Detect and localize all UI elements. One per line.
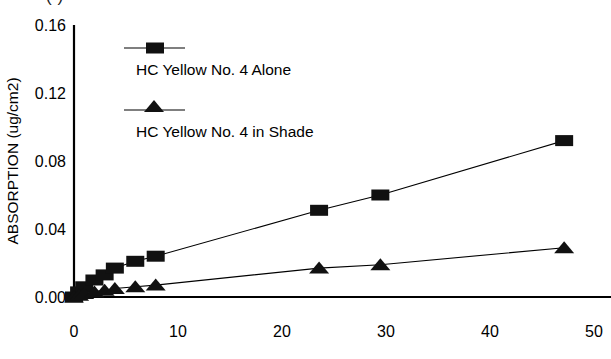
y-tick-label: 0.00	[35, 289, 66, 306]
data-point-square	[310, 205, 328, 216]
chart-figure: ( ) 0.16 0.12 0.08 0.04 0.00 0 10 20 30 …	[0, 0, 611, 359]
y-tick-labels: 0.16 0.12 0.08 0.04 0.00	[35, 17, 66, 306]
x-tick-label: 0	[70, 323, 79, 340]
y-tick-label: 0.12	[35, 85, 66, 102]
x-tick-label: 50	[585, 323, 603, 340]
series-shade	[64, 241, 574, 302]
legend: HC Yellow No. 4 Alone HC Yellow No. 4 in…	[124, 43, 314, 141]
absorption-line-chart: 0.16 0.12 0.08 0.04 0.00 0 10 20 30 40 5…	[0, 0, 611, 359]
legend-entry-shade: HC Yellow No. 4 in Shade	[124, 100, 314, 140]
legend-label: HC Yellow No. 4 Alone	[136, 61, 291, 78]
x-tick-label: 20	[273, 323, 291, 340]
data-point-square	[126, 256, 144, 267]
legend-label: HC Yellow No. 4 in Shade	[136, 123, 314, 140]
data-point-square	[371, 190, 389, 201]
x-tick-label: 10	[169, 323, 187, 340]
y-axis-title: ABSORPTION (ug/cm2)	[4, 77, 21, 244]
legend-entry-alone: HC Yellow No. 4 Alone	[124, 43, 291, 79]
x-tick-label: 40	[481, 323, 499, 340]
data-point-square	[147, 251, 165, 262]
y-tick-label: 0.04	[35, 221, 66, 238]
series-layer	[64, 135, 574, 302]
series-alone	[65, 135, 573, 302]
triangle-marker-icon	[144, 100, 164, 112]
square-marker-icon	[146, 43, 164, 54]
x-tick-label: 30	[377, 323, 395, 340]
data-point-triangle	[554, 241, 574, 253]
x-tick-labels: 0 10 20 30 40 50	[70, 323, 603, 340]
y-tick-label: 0.16	[35, 17, 66, 34]
y-tick-label: 0.08	[35, 153, 66, 170]
data-point-square	[555, 135, 573, 146]
data-point-square	[106, 263, 124, 274]
